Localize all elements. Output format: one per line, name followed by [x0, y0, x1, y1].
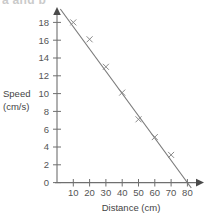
y-tick-label-18: 18 [38, 17, 49, 28]
y-tick-label-12: 12 [38, 70, 49, 81]
y-tick-label-14: 14 [38, 52, 49, 63]
speed-vs-distance-chart: 0 2 4 6 8 10 12 14 16 18 Speed (cm/s) [0, 0, 212, 217]
y-tick-label-8: 8 [44, 106, 49, 117]
data-point-marker [168, 152, 174, 158]
x-tick-label-10: 10 [68, 187, 79, 198]
x-tick-label-70: 70 [166, 187, 177, 198]
x-tick-labels: 10 20 30 40 50 60 70 80 [68, 187, 193, 198]
y-axis-title-line2: (cm/s) [3, 101, 29, 112]
data-point-markers [70, 19, 174, 158]
best-fit-line-group [60, 9, 191, 188]
x-tick-label-20: 20 [84, 187, 95, 198]
data-point-marker [103, 64, 109, 70]
y-tick-labels: 0 2 4 6 8 10 12 14 16 18 [38, 17, 49, 188]
y-tick-label-16: 16 [38, 35, 49, 46]
y-tick-label-4: 4 [44, 141, 49, 152]
y-axis-arrow-icon [53, 7, 61, 15]
y-axis-group: 0 2 4 6 8 10 12 14 16 18 Speed (cm/s) [3, 7, 61, 188]
x-axis-arrow-icon [196, 179, 204, 187]
data-point-marker [152, 134, 158, 140]
x-axis-title: Distance (cm) [102, 202, 161, 213]
x-tick-label-40: 40 [117, 187, 128, 198]
chart-figure: a and b 0 [0, 0, 212, 217]
x-tick-label-50: 50 [133, 187, 144, 198]
y-tick-label-2: 2 [44, 159, 49, 170]
data-point-marker [87, 36, 93, 42]
best-fit-line [60, 9, 191, 188]
x-tick-label-30: 30 [101, 187, 112, 198]
x-tick-label-80: 80 [182, 187, 193, 198]
y-tick-label-0: 0 [44, 177, 49, 188]
y-axis-title-line1: Speed [3, 88, 30, 99]
y-tick-label-6: 6 [44, 124, 49, 135]
data-point-marker [70, 19, 76, 25]
x-tick-label-60: 60 [150, 187, 161, 198]
y-tick-label-10: 10 [38, 88, 49, 99]
x-axis-group: 10 20 30 40 50 60 70 80 Distance (cm) [55, 179, 204, 213]
data-point-marker [119, 90, 125, 96]
